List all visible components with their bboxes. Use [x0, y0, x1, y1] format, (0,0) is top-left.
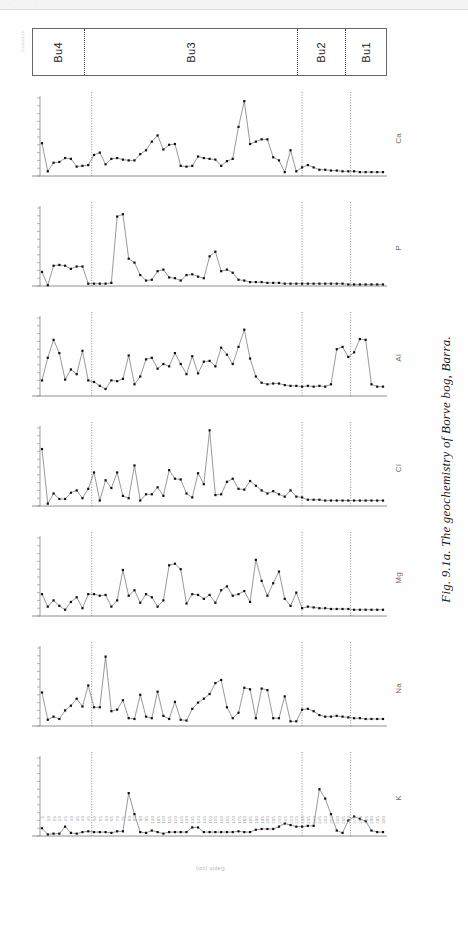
data-point [289, 720, 291, 722]
data-point [255, 559, 257, 561]
data-point [162, 269, 164, 271]
page-edge [0, 0, 468, 10]
panel-label-text: Al [394, 354, 403, 362]
data-point [318, 499, 320, 501]
panel-label-cl: Cl [394, 422, 403, 514]
data-point [209, 693, 211, 695]
depth-tick-label: 80 [127, 816, 132, 821]
depth-tick-label: 35 [75, 816, 80, 821]
data-point [128, 792, 130, 794]
data-point [341, 346, 343, 348]
data-point [272, 156, 274, 158]
data-point [382, 609, 384, 611]
plot-area-al [32, 312, 387, 404]
data-point [272, 490, 274, 492]
data-point [185, 274, 187, 276]
data-point [64, 265, 66, 267]
data-point [156, 368, 158, 370]
data-point [168, 564, 170, 566]
depth-tick-label: 200 [265, 816, 270, 824]
data-point [87, 684, 89, 686]
data-point [284, 171, 286, 173]
data-point [255, 141, 257, 143]
depth-tick-label: 195 [260, 816, 265, 824]
data-point [261, 489, 263, 491]
data-point [261, 281, 263, 283]
depth-tick-label: 180 [242, 816, 247, 824]
data-point [70, 601, 72, 603]
depth-tick-label: 10 [46, 816, 51, 821]
data-point [41, 271, 43, 273]
data-point [156, 134, 158, 136]
data-point [313, 386, 315, 388]
data-point [52, 492, 54, 494]
data-point [261, 687, 263, 689]
data-point [52, 716, 54, 718]
data-point [330, 283, 332, 285]
data-point [232, 158, 234, 160]
data-point [197, 155, 199, 157]
data-point [243, 590, 245, 592]
data-point [376, 609, 378, 611]
depth-tick-label: 220 [289, 816, 294, 824]
depth-tick-label: 25 [63, 816, 68, 821]
data-point [81, 607, 83, 609]
data-point [318, 788, 320, 790]
data-point [128, 497, 130, 499]
data-point [353, 499, 355, 501]
data-point [52, 265, 54, 267]
data-point [261, 580, 263, 582]
panel-label-na: Na [394, 642, 403, 734]
data-point [209, 594, 211, 596]
depth-tick-label: 45 [86, 816, 91, 821]
data-point [133, 718, 135, 720]
data-point [168, 365, 170, 367]
data-point [145, 358, 147, 360]
depth-tick-label: 55 [98, 816, 103, 821]
data-point [370, 609, 372, 611]
data-point [104, 594, 106, 596]
data-point [266, 383, 268, 385]
data-point [301, 283, 303, 285]
data-point [151, 357, 153, 359]
data-point [139, 274, 141, 276]
data-point [324, 716, 326, 718]
data-point [47, 284, 49, 286]
data-point [168, 469, 170, 471]
data-point [324, 283, 326, 285]
data-point [139, 694, 141, 696]
data-point [93, 154, 95, 156]
depth-tick-label: 205 [271, 816, 276, 824]
data-point [359, 717, 361, 719]
data-point [301, 496, 303, 498]
data-point [110, 487, 112, 489]
data-point [64, 498, 66, 500]
data-point [272, 582, 274, 584]
data-point [116, 709, 118, 711]
depth-tick-label: 210 [277, 816, 282, 824]
data-point [249, 688, 251, 690]
data-point [99, 706, 101, 708]
depth-tick-label: 70 [115, 816, 120, 821]
data-point [313, 166, 315, 168]
data-point [191, 355, 193, 357]
data-point [47, 719, 49, 721]
data-point [365, 339, 367, 341]
data-point [347, 170, 349, 172]
data-point [295, 496, 297, 498]
data-point [47, 170, 49, 172]
data-point [99, 283, 101, 285]
data-point [226, 481, 228, 483]
data-point [145, 493, 147, 495]
data-point [110, 158, 112, 160]
data-point [180, 279, 182, 281]
data-point [133, 464, 135, 466]
data-point [139, 375, 141, 377]
data-point [266, 492, 268, 494]
data-point [116, 599, 118, 601]
data-point [255, 485, 257, 487]
data-point [307, 708, 309, 710]
data-point [122, 213, 124, 215]
data-point [370, 171, 372, 173]
data-point [209, 429, 211, 431]
